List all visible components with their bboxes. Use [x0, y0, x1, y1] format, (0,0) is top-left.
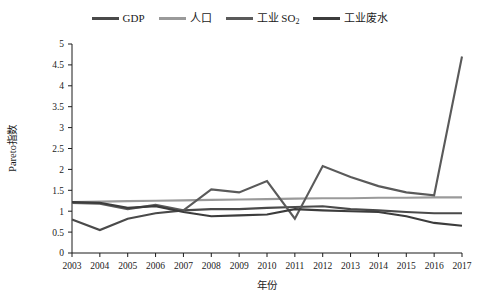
y-tick-label: 1.5 [52, 186, 64, 196]
x-tick-label: 2004 [90, 261, 109, 271]
x-axis-ticks: 2003200420052006200720082009201020112012… [63, 253, 472, 271]
plot-area: 00.511.522.533.544.55 200320042005200620… [0, 0, 480, 302]
y-tick-label: 4 [59, 81, 64, 91]
x-tick-label: 2017 [453, 261, 472, 271]
y-axis-title: Pareto指数 [6, 124, 18, 172]
y-tick-label: 0.5 [52, 228, 64, 238]
y-tick-label: 2.5 [52, 144, 64, 154]
series-line-工业-so₂ [72, 57, 462, 219]
y-tick-label: 1 [59, 207, 64, 217]
x-tick-label: 2008 [202, 261, 221, 271]
x-tick-label: 2014 [369, 261, 388, 271]
y-tick-label: 0 [59, 248, 64, 258]
x-tick-label: 2007 [174, 261, 193, 271]
y-tick-label: 4.5 [52, 60, 64, 70]
pareto-index-line-chart: GDP 人口 工业 SO2 工业废水 00.511.522.533.544.55… [0, 0, 480, 302]
x-axis-title: 年份 [257, 279, 278, 291]
x-tick-label: 2010 [258, 261, 277, 271]
x-tick-label: 2016 [425, 261, 444, 271]
x-tick-label: 2012 [313, 261, 332, 271]
series-line-gdp [72, 206, 462, 230]
x-tick-label: 2015 [397, 261, 416, 271]
y-tick-label: 5 [59, 39, 64, 49]
series-line-工业废水 [72, 202, 462, 226]
y-tick-label: 2 [59, 165, 64, 175]
y-tick-label: 3 [59, 123, 64, 133]
x-tick-label: 2006 [146, 261, 165, 271]
x-tick-label: 2009 [230, 261, 249, 271]
y-tick-label: 3.5 [52, 102, 64, 112]
series-line-人口 [72, 197, 462, 202]
x-tick-label: 2005 [118, 261, 137, 271]
data-series-group [72, 57, 462, 230]
chart-svg: 00.511.522.533.544.55 200320042005200620… [0, 0, 480, 302]
x-tick-label: 2011 [286, 261, 305, 271]
x-tick-label: 2013 [341, 261, 360, 271]
y-axis-ticks: 00.511.522.533.544.55 [52, 39, 72, 258]
x-tick-label: 2003 [63, 261, 82, 271]
